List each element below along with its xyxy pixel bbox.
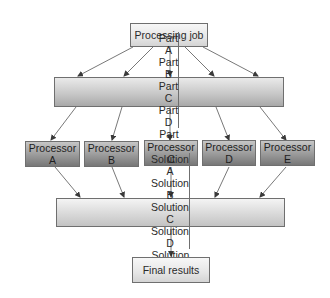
solution-a-line1: Solution [151,153,189,165]
part-e-line1: Part [159,128,178,140]
solutions-row: Solution A Solution B Solution C Solutio… [56,198,285,227]
solution-c-line1: Solution [151,201,189,213]
processor-a-box: Processor A [25,141,80,167]
processor-d-box: Processor D [202,140,256,166]
solution-c-box: Solution C [151,201,190,225]
solution-a-line2: A [166,165,173,177]
processor-b-box: Processor B [84,141,139,167]
processor-d-line1: Processor [205,141,252,153]
final-results-box: Final results [132,257,210,283]
processor-c-line1: Processor [147,141,194,153]
part-c-line2: C [165,92,173,104]
part-b-box: Part B [159,56,179,80]
part-d-line1: Part [159,104,178,116]
solution-b-box: Solution B [151,177,190,201]
part-b-line2: B [165,68,172,80]
solution-c-line2: C [166,213,174,225]
part-d-box: Part D [159,104,179,128]
part-a-line2: A [165,44,172,56]
part-c-line1: Part [159,80,178,92]
processor-b-line1: Processor [88,142,135,154]
part-d-line2: D [165,116,173,128]
processor-e-line2: E [284,153,291,165]
solution-b-line1: Solution [151,177,189,189]
processor-b-line2: B [108,154,115,166]
part-c-box: Part C [159,80,179,104]
solution-b-line2: B [166,189,173,201]
part-a-line1: Part [159,32,178,44]
parallel-processing-diagram: Processing job Part A Part B Part C Part… [0,0,330,298]
solution-a-box: Solution A [151,153,190,177]
processor-d-line2: D [225,153,233,165]
part-a-box: Part A [159,32,179,56]
processor-e-line1: Processor [264,141,311,153]
solution-d-line2: D [166,237,174,249]
processor-e-box: Processor E [260,140,315,166]
solution-d-box: Solution D [151,225,190,249]
part-b-line1: Part [159,56,178,68]
solution-d-line1: Solution [151,225,189,237]
parts-row: Part A Part B Part C Part D Part E [54,77,284,107]
final-results-label: Final results [143,264,200,276]
processor-a-line1: Processor [29,142,76,154]
processor-a-line2: A [49,154,56,166]
